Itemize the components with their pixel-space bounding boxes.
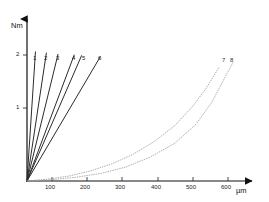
- series-line-2: [27, 53, 46, 181]
- series-line-5: [27, 56, 82, 181]
- x-tick-label-100: 100: [45, 184, 55, 190]
- plot-area: [0, 0, 269, 202]
- curve-label-1: 1: [33, 55, 36, 61]
- y-axis-label: Nm: [11, 22, 23, 30]
- series-line-7: [27, 68, 219, 181]
- curve-label-8: 8: [230, 57, 233, 63]
- curve-label-4: 4: [72, 55, 75, 61]
- x-tick-label-400: 400: [151, 184, 161, 190]
- series-line-6: [27, 57, 100, 181]
- x-tick-label-600: 600: [221, 184, 231, 190]
- x-tick-label-300: 300: [115, 184, 125, 190]
- x-tick-label-500: 500: [186, 184, 196, 190]
- curve-label-3: 3: [56, 55, 59, 61]
- x-tick-label-200: 200: [80, 184, 90, 190]
- curve-label-2: 2: [44, 55, 47, 61]
- curve-label-5: 5: [82, 55, 85, 61]
- curve-label-7: 7: [222, 57, 225, 63]
- y-tick-label-2: 2: [16, 51, 19, 57]
- chart-container: Nm µm 1 2 100 200 300 400 500 600 1 2 3 …: [0, 0, 269, 202]
- series-line-3: [27, 54, 58, 181]
- curve-label-6: 6: [98, 55, 101, 61]
- data-series-group: [27, 52, 233, 181]
- y-tick-label-1: 1: [16, 104, 19, 110]
- series-line-8: [27, 63, 233, 181]
- y-axis: [23, 19, 27, 182]
- x-axis-label: µm: [236, 187, 247, 195]
